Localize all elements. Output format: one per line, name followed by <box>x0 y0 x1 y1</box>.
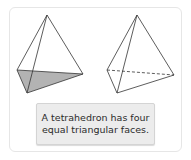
caption-line-1: A tetrahedron has four <box>42 112 150 124</box>
hidden-edge-dashed <box>107 70 174 75</box>
caption-box: A tetrahedron has four equal triangular … <box>36 103 155 145</box>
tetrahedron-left <box>17 15 83 93</box>
shaded-base-face <box>17 70 83 93</box>
tetrahedron-right <box>107 15 174 93</box>
caption-line-2: equal triangular faces. <box>42 124 149 136</box>
